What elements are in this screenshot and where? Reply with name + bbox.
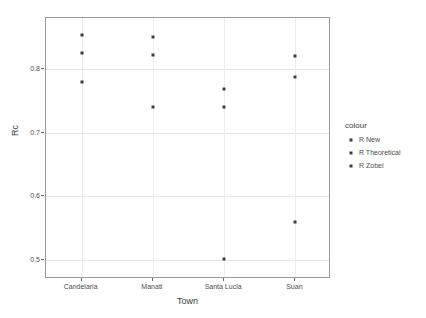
data-point: [294, 55, 297, 58]
legend-title: colour: [345, 121, 423, 130]
x-axis-tick-mark: [81, 278, 82, 281]
legend-entry-label: R New: [359, 136, 380, 143]
data-point: [151, 53, 154, 56]
gridline-horizontal: [46, 260, 329, 261]
y-axis-tick-marks: [0, 17, 45, 278]
y-axis-tick-mark: [41, 68, 44, 69]
legend-entry[interactable]: R New: [345, 133, 423, 146]
gridline-vertical: [224, 18, 225, 277]
x-axis-title: Town: [45, 296, 330, 306]
legend-point-icon: [349, 138, 352, 141]
x-axis-tick-mark: [294, 278, 295, 281]
y-axis-tick-mark: [41, 259, 44, 260]
data-point: [294, 220, 297, 223]
gridline-horizontal: [46, 69, 329, 70]
plot-panel: [45, 17, 330, 278]
scatter-plot-figure: 0.50.60.70.8 CandelariaManatiSanta Lucia…: [0, 0, 426, 318]
legend-entry[interactable]: R Zobel: [345, 159, 423, 172]
x-axis-tick-label: Suan: [286, 283, 302, 290]
y-axis-tick-mark: [41, 195, 44, 196]
data-point: [80, 52, 83, 55]
data-point: [151, 36, 154, 39]
x-axis-tick-label: Candelaria: [64, 283, 98, 290]
legend-key-swatch: [345, 147, 356, 158]
x-axis-tick-labels: CandelariaManatiSanta LuciaSuan: [45, 283, 330, 295]
legend-entries: R NewR TheoreticalR Zobel: [345, 133, 423, 172]
data-point: [223, 258, 226, 261]
y-axis-tick-mark: [41, 132, 44, 133]
x-axis-tick-label: Manati: [141, 283, 162, 290]
gridline-horizontal: [46, 133, 329, 134]
legend-key-swatch: [345, 160, 356, 171]
gridline-horizontal: [46, 196, 329, 197]
x-axis-tick-marks: [45, 278, 330, 282]
data-point: [294, 76, 297, 79]
data-point: [151, 106, 154, 109]
gridline-vertical: [153, 18, 154, 277]
legend-key-swatch: [345, 134, 356, 145]
legend-entry[interactable]: R Theoretical: [345, 146, 423, 159]
data-point: [80, 80, 83, 83]
y-axis-title: Rc: [10, 125, 20, 136]
legend-entry-label: R Zobel: [359, 162, 384, 169]
legend: colour R NewR TheoreticalR Zobel: [345, 121, 423, 172]
legend-entry-label: R Theoretical: [359, 149, 401, 156]
legend-point-icon: [349, 164, 352, 167]
gridline-vertical: [82, 18, 83, 277]
x-axis-tick-mark: [223, 278, 224, 281]
x-axis-tick-mark: [152, 278, 153, 281]
legend-point-icon: [349, 151, 352, 154]
data-point: [80, 34, 83, 37]
data-point: [223, 88, 226, 91]
x-axis-tick-label: Santa Lucia: [205, 283, 242, 290]
data-point: [223, 106, 226, 109]
